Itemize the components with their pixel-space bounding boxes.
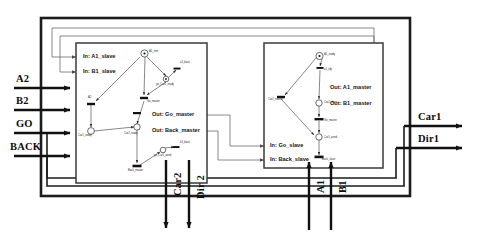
diagram-canvas <box>0 0 479 234</box>
slave-node-caption: A2 <box>88 97 91 100</box>
diagram-root: A2 B2 GO BACK Car1 Dir1 Car2 Dir 2 A1 B1… <box>0 0 479 234</box>
master-output-a1: Out: A1_master <box>330 85 371 91</box>
external-output-label-dir1: Dir1 <box>418 134 439 145</box>
master-input-back-slave: In: Back_slave <box>270 157 309 163</box>
external-input-label-a2: A2 <box>16 74 29 85</box>
bottom-input-label-a1: A1 <box>316 180 327 193</box>
slave-input-a1: In: A1_slave <box>83 54 115 60</box>
master-node-caption: Car2_master <box>268 99 283 102</box>
slave-node-caption: Back_master <box>128 170 143 173</box>
slave-node-caption: go_Car1_aend <box>154 155 171 158</box>
master-input-go-slave: In: Go_slave <box>270 143 303 149</box>
slave-node-caption: Go_master <box>147 101 160 104</box>
bottom-output-label-car2: Car2 <box>173 172 184 196</box>
slave-node-caption: b1_back <box>180 142 190 145</box>
slave-node-caption: go_Car1_ready <box>156 84 174 87</box>
slave-node-caption: Car2_ready <box>124 133 138 136</box>
bottom-output-label-dir2: Dir 2 <box>196 175 207 199</box>
master-node-caption: a1_rdy <box>324 69 332 72</box>
external-input-label-b2: B2 <box>16 96 29 107</box>
master-node-caption: A1_ready <box>324 54 335 57</box>
external-input-label-go: GO <box>16 119 33 130</box>
master-node-caption: Car2_slave <box>324 102 337 105</box>
master-node-caption: Back_slave <box>322 159 335 162</box>
bottom-input-label-b1: B1 <box>338 180 349 193</box>
slave-output-back-master: Out: Back_master <box>152 128 200 134</box>
master-node-caption: Car1_aend <box>324 137 337 140</box>
slave-node-caption: Car1_ready <box>78 135 92 138</box>
slave-node-caption: A1_rem <box>149 51 158 54</box>
master-place-tokens <box>318 55 320 57</box>
slave-node-caption: a1_back <box>180 62 190 65</box>
master-node-caption: Go_master <box>324 120 337 123</box>
slave-input-b1: In: B1_slave <box>83 69 116 75</box>
external-output-label-car1: Car1 <box>418 112 442 123</box>
slave-output-go-master: Out: Go_master <box>152 112 194 118</box>
external-input-label-back: BACK <box>10 142 41 153</box>
module-interconnect-wires <box>207 115 264 160</box>
